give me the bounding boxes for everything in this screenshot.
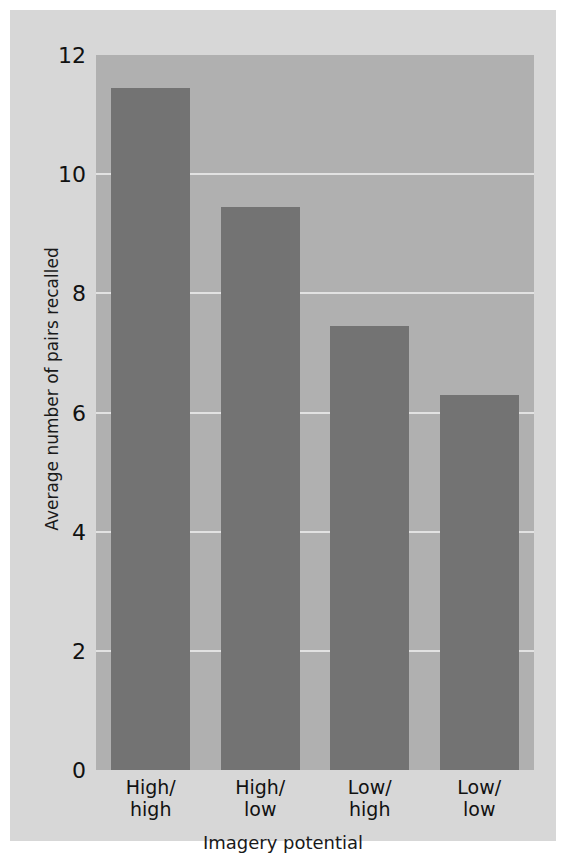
x-tick-label: Low/low [425, 776, 535, 821]
y-axis-tick-labels: 121086420 [44, 55, 86, 770]
x-axis-title: Imagery potential [10, 832, 556, 853]
y-tick-label: 8 [44, 281, 86, 306]
x-tick-label-line2: high [315, 798, 425, 820]
y-tick-label: 10 [44, 162, 86, 187]
x-tick-label: High/high [96, 776, 206, 821]
x-tick-label-line2: high [96, 798, 206, 820]
y-tick-label: 2 [44, 638, 86, 663]
y-tick-label: 6 [44, 400, 86, 425]
bar [221, 207, 300, 770]
x-tick-label: High/low [206, 776, 316, 821]
x-tick-label: Low/high [315, 776, 425, 821]
y-tick-label: 0 [44, 758, 86, 783]
x-tick-label-line2: low [425, 798, 535, 820]
x-tick-label-line2: low [206, 798, 316, 820]
bar [330, 326, 409, 770]
y-tick-label: 12 [44, 43, 86, 68]
x-tick-label-line1: Low/ [425, 776, 535, 798]
x-tick-label-line1: High/ [206, 776, 316, 798]
x-tick-label-line1: Low/ [315, 776, 425, 798]
y-tick-label: 4 [44, 519, 86, 544]
x-axis-tick-labels: High/highHigh/lowLow/highLow/low [96, 776, 534, 838]
chart-figure: Average number of pairs recalled 1210864… [10, 10, 556, 841]
bar [440, 395, 519, 770]
x-tick-label-line1: High/ [96, 776, 206, 798]
bar [111, 88, 190, 770]
plot-area [96, 55, 534, 770]
